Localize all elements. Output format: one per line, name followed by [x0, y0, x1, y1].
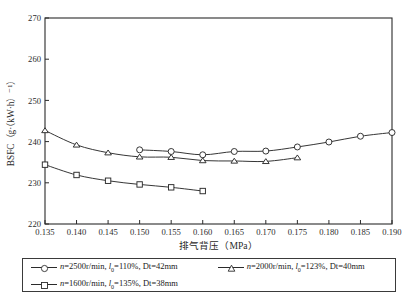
data-point-marker-circle	[389, 130, 395, 136]
legend-marker-triangle-icon	[218, 263, 244, 272]
legend-row-1: n=2500r/min, l0=110%, Dt=42mm n=2000r/mi…	[23, 259, 395, 276]
y-axis-label: BSFC（g·（kW·h）⁻¹）	[6, 76, 16, 166]
data-point-marker-square	[200, 188, 205, 193]
x-tick-label: 0.190	[382, 227, 401, 237]
data-series-group	[42, 128, 395, 194]
x-tick-label: 0.175	[288, 227, 307, 237]
y-tick-label: 240	[28, 137, 41, 147]
y-axis-ticks	[45, 18, 49, 224]
y-tick-label: 220	[28, 219, 41, 229]
legend-item-2000rmin: n=2000r/min, l0=123%, Dt=40mm	[218, 262, 365, 273]
legend-row-2: n=1600r/min, l0=135%, Dt=38mm	[23, 276, 395, 293]
x-axis-ticks	[45, 220, 392, 224]
data-point-marker-triangle	[42, 128, 49, 133]
data-point-marker-triangle	[73, 142, 80, 147]
x-tick-label: 0.155	[162, 227, 181, 237]
legend: n=2500r/min, l0=110%, Dt=42mm n=2000r/mi…	[22, 258, 396, 292]
data-point-marker-circle	[263, 148, 269, 154]
x-tick-label: 0.150	[130, 227, 149, 237]
x-axis-tick-labels: 0.1350.1400.1450.1500.1550.1600.1650.170…	[35, 227, 401, 237]
x-axis-label: 排气背压（MPa）	[179, 240, 257, 251]
plot-frame	[45, 18, 392, 224]
y-tick-label: 260	[28, 54, 41, 64]
data-point-marker-square	[105, 178, 110, 183]
data-point-marker-triangle	[294, 155, 301, 160]
legend-marker-square-icon	[31, 280, 57, 289]
x-tick-label: 0.170	[256, 227, 275, 237]
bsfc-vs-exhaust-backpressure-chart: 0.1350.1400.1450.1500.1550.1600.1650.170…	[0, 0, 411, 300]
data-point-marker-circle	[168, 148, 174, 154]
legend-item-1600rmin: n=1600r/min, l0=135%, Dt=38mm	[31, 279, 178, 290]
data-point-marker-circle	[231, 148, 237, 154]
data-point-marker-circle	[357, 133, 363, 139]
legend-label-2000rmin: n=2000r/min, l0=123%, Dt=40mm	[247, 262, 365, 273]
series-1	[42, 128, 301, 164]
legend-label-2500rmin: n=2500r/min, l0=110%, Dt=42mm	[60, 262, 178, 273]
data-point-marker-square	[168, 185, 173, 190]
legend-label-1600rmin: n=1600r/min, l0=135%, Dt=38mm	[60, 279, 178, 290]
y-axis-label-text: BSFC（g·（kW·h）⁻¹）	[6, 76, 16, 166]
y-tick-label: 250	[28, 96, 41, 106]
x-axis-label-text: 排气背压（MPa）	[179, 240, 257, 251]
data-point-marker-circle	[294, 144, 300, 150]
data-point-marker-square	[74, 172, 79, 177]
y-tick-label: 270	[28, 13, 41, 23]
series-line	[45, 165, 203, 191]
legend-marker-circle-icon	[31, 263, 57, 272]
x-tick-label: 0.160	[193, 227, 212, 237]
data-point-marker-circle	[326, 139, 332, 145]
data-point-marker-circle	[137, 147, 143, 153]
y-axis-tick-labels: 220230240250260270	[28, 13, 41, 229]
series-2	[42, 162, 205, 194]
figure-container: 0.1350.1400.1450.1500.1550.1600.1650.170…	[0, 0, 411, 300]
y-tick-label: 230	[28, 178, 41, 188]
data-point-marker-square	[137, 182, 142, 187]
x-tick-label: 0.140	[67, 227, 86, 237]
series-0	[137, 130, 395, 158]
data-point-marker-circle	[200, 152, 206, 158]
data-point-marker-square	[42, 162, 47, 167]
x-tick-label: 0.185	[351, 227, 370, 237]
x-tick-label: 0.165	[225, 227, 244, 237]
x-tick-label: 0.145	[98, 227, 117, 237]
x-tick-label: 0.180	[319, 227, 338, 237]
legend-item-2500rmin: n=2500r/min, l0=110%, Dt=42mm	[31, 262, 178, 273]
